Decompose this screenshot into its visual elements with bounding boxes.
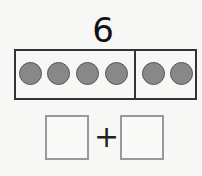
counter-dot (47, 62, 70, 85)
number-frame (14, 49, 197, 100)
addend-box-left[interactable] (45, 115, 89, 160)
addend-box-right[interactable] (120, 115, 164, 160)
counter-dot (76, 62, 99, 85)
counter-dot (142, 62, 165, 85)
counter-dot (105, 62, 128, 85)
counter-dot (170, 62, 193, 85)
frame-divider (134, 51, 136, 98)
target-number: 6 (0, 10, 202, 50)
plus-sign: + (94, 120, 116, 154)
counter-dot (19, 62, 42, 85)
